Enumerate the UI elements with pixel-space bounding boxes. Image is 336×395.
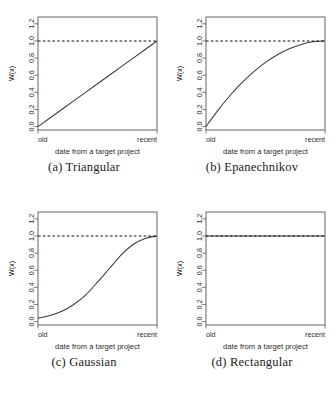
- plot-box: [38, 17, 157, 130]
- x-tick-label: recent: [305, 330, 325, 339]
- x-axis-title: date from a target project: [55, 342, 141, 351]
- y-tick-label: 1.2: [195, 214, 204, 224]
- y-tick-label: 0.4: [195, 282, 204, 292]
- x-tick-label: old: [206, 330, 216, 339]
- y-tick-label: 0.2: [195, 104, 204, 114]
- y-tick-label: 0.4: [195, 87, 204, 97]
- x-axis-title: date from a target project: [55, 147, 141, 156]
- panel-caption-rectangular: (d) Rectangular: [168, 355, 336, 370]
- y-tick-label: 1.0: [195, 36, 204, 46]
- plot-svg-gaussian: 0.00.20.40.60.81.01.2W(x)oldrecentdate f…: [0, 195, 168, 355]
- kernel-curve: [38, 41, 157, 127]
- y-axis-title: W(x): [175, 261, 184, 276]
- plot-svg-triangular: 0.00.20.40.60.81.01.2W(x)oldrecentdate f…: [0, 0, 168, 160]
- y-tick-label: 0.0: [27, 122, 36, 132]
- plot-area-epanechnikov: 0.00.20.40.60.81.01.2W(x)oldrecentdate f…: [168, 0, 336, 160]
- y-tick-label: 0.2: [195, 299, 204, 309]
- panel-triangular: 0.00.20.40.60.81.01.2W(x)oldrecentdate f…: [0, 0, 168, 195]
- plot-svg-rectangular: 0.00.20.40.60.81.01.2W(x)oldrecentdate f…: [168, 195, 336, 355]
- x-tick-label: old: [206, 135, 216, 144]
- x-tick-label: old: [38, 330, 48, 339]
- y-tick-label: 0.6: [195, 70, 204, 80]
- x-tick-label: recent: [137, 330, 157, 339]
- plot-svg-epanechnikov: 0.00.20.40.60.81.01.2W(x)oldrecentdate f…: [168, 0, 336, 160]
- y-tick-label: 0.6: [195, 265, 204, 275]
- panel-gaussian: 0.00.20.40.60.81.01.2W(x)oldrecentdate f…: [0, 195, 168, 390]
- y-tick-label: 0.8: [195, 53, 204, 63]
- y-axis-title: W(x): [7, 261, 16, 276]
- plot-box: [206, 212, 325, 325]
- panel-caption-gaussian: (c) Gaussian: [0, 355, 168, 370]
- x-axis-title: date from a target project: [223, 147, 309, 156]
- panel-epanechnikov: 0.00.20.40.60.81.01.2W(x)oldrecentdate f…: [168, 0, 336, 195]
- x-tick-label: recent: [305, 135, 325, 144]
- y-tick-label: 0.0: [195, 122, 204, 132]
- x-axis-title: date from a target project: [223, 342, 309, 351]
- kernel-weight-figure: 0.00.20.40.60.81.01.2W(x)oldrecentdate f…: [0, 0, 336, 395]
- y-tick-label: 0.2: [27, 299, 36, 309]
- y-tick-label: 0.0: [27, 317, 36, 327]
- plot-area-gaussian: 0.00.20.40.60.81.01.2W(x)oldrecentdate f…: [0, 195, 168, 355]
- y-tick-label: 0.2: [27, 104, 36, 114]
- x-tick-label: recent: [137, 135, 157, 144]
- y-tick-label: 1.0: [27, 231, 36, 241]
- y-tick-label: 1.2: [195, 19, 204, 29]
- y-tick-label: 1.2: [27, 214, 36, 224]
- panel-caption-epanechnikov: (b) Epanechnikov: [168, 160, 336, 175]
- y-tick-label: 0.8: [27, 248, 36, 258]
- y-tick-label: 0.8: [27, 53, 36, 63]
- y-tick-label: 0.4: [27, 282, 36, 292]
- y-tick-label: 1.0: [195, 231, 204, 241]
- y-axis-title: W(x): [7, 66, 16, 81]
- plot-area-rectangular: 0.00.20.40.60.81.01.2W(x)oldrecentdate f…: [168, 195, 336, 355]
- plot-area-triangular: 0.00.20.40.60.81.01.2W(x)oldrecentdate f…: [0, 0, 168, 160]
- y-tick-label: 0.6: [27, 265, 36, 275]
- x-tick-label: old: [38, 135, 48, 144]
- panel-rectangular: 0.00.20.40.60.81.01.2W(x)oldrecentdate f…: [168, 195, 336, 390]
- panel-caption-triangular: (a) Triangular: [0, 160, 168, 175]
- kernel-curve: [206, 41, 325, 127]
- y-tick-label: 0.6: [27, 70, 36, 80]
- y-tick-label: 0.4: [27, 87, 36, 97]
- y-axis-title: W(x): [175, 66, 184, 81]
- y-tick-label: 0.8: [195, 248, 204, 258]
- y-tick-label: 0.0: [195, 317, 204, 327]
- plot-box: [206, 17, 325, 130]
- plot-box: [38, 212, 157, 325]
- y-tick-label: 1.2: [27, 19, 36, 29]
- kernel-curve: [38, 236, 157, 318]
- y-tick-label: 1.0: [27, 36, 36, 46]
